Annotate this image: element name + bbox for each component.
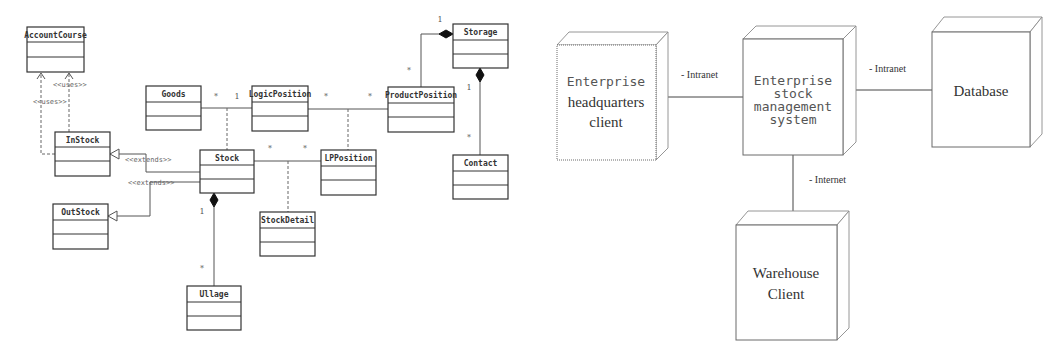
uses-label-right: <<uses>> [53,81,87,89]
node-hq-client[interactable]: Enterprise headquarters client [557,32,668,160]
extends-label-outstock: <<extends>> [128,179,174,187]
node-top-face [736,211,849,225]
generalization-triangle-icon [108,211,117,221]
node-label-line: Database [954,83,1009,99]
class-stockdetail[interactable]: StockDetail [260,212,315,256]
node-front-face [736,225,837,340]
multiplicity: 1 [234,92,239,101]
node-label-line: Warehouse [753,265,820,281]
link-label-intranet-2: - Intranet [869,63,906,74]
class-ullage[interactable]: Ullage [187,286,241,330]
generalization-triangle-icon [110,149,119,159]
class-name: StockDetail [261,215,314,225]
node-side-face [837,211,849,340]
multiplicity: 1 [199,207,204,216]
class-name: InStock [66,136,100,145]
class-name: ProductPosition [385,90,457,100]
class-productposition[interactable]: ProductPosition [385,87,457,132]
multiplicity: 1 [437,15,442,24]
class-storage[interactable]: Storage [453,24,508,68]
multiplicity: * [407,66,411,75]
class-name: LPPosition [324,153,372,163]
extends-label-instock: <<extends>> [125,156,171,164]
class-stock[interactable]: Stock [200,150,254,193]
class-name: Goods [161,90,185,99]
class-goods[interactable]: Goods [146,86,201,130]
class-name: Stock [215,154,239,163]
extends-line-outstock [117,182,200,216]
node-top-face [932,17,1042,32]
node-stock-system[interactable]: Enterprise stock management system [743,26,856,155]
class-contact[interactable]: Contact [453,155,508,199]
multiplicity: * [324,92,328,101]
composition-diamond-icon [439,30,453,38]
class-name: Storage [464,28,498,37]
node-top-face [557,32,668,45]
multiplicity: * [200,264,204,273]
node-side-face [843,26,856,155]
multiplicity-labels: * 1 * * * * 1 * 1 * 1 * [199,15,471,273]
link-label-internet: - Internet [809,174,846,185]
link-label-intranet-1: - Intranet [681,69,718,80]
node-warehouse-client[interactable]: Warehouse Client [736,211,849,340]
class-lpposition[interactable]: LPPosition [321,150,376,195]
class-instock[interactable]: InStock [55,132,110,176]
node-top-face [743,26,856,39]
node-label-line: client [589,114,623,130]
node-side-face [656,32,668,160]
multiplicity: * [368,92,372,101]
composition-diamond-icon [210,193,218,207]
multiplicity: * [467,133,471,142]
class-accountcourse[interactable]: AccountCourse [24,27,87,72]
composition-storage-product [421,34,440,87]
multiplicity: * [268,144,272,153]
class-name: Contact [464,159,498,168]
multiplicity: * [214,92,218,101]
composition-diamond-icon [476,68,484,82]
multiplicity: 1 [466,83,471,92]
node-side-face [1030,17,1042,147]
node-label-line: Client [768,286,805,302]
diagram-canvas: <<uses>> <<uses>> <<extends>> <<extends>… [0,0,1064,353]
class-name: LogicPosition [249,89,312,99]
class-name: AccountCourse [24,31,87,40]
node-label-line: system [770,112,817,127]
node-database[interactable]: Database [932,17,1042,147]
node-label-line: headquarters [568,94,645,110]
multiplicity: * [303,144,307,153]
class-name: OutStock [61,208,100,217]
class-name: Ullage [200,290,229,299]
class-logicposition[interactable]: LogicPosition [249,86,312,131]
class-outstock[interactable]: OutStock [53,204,108,249]
uses-label-left: <<uses>> [33,98,67,106]
node-label-line: Enterprise [567,74,645,89]
